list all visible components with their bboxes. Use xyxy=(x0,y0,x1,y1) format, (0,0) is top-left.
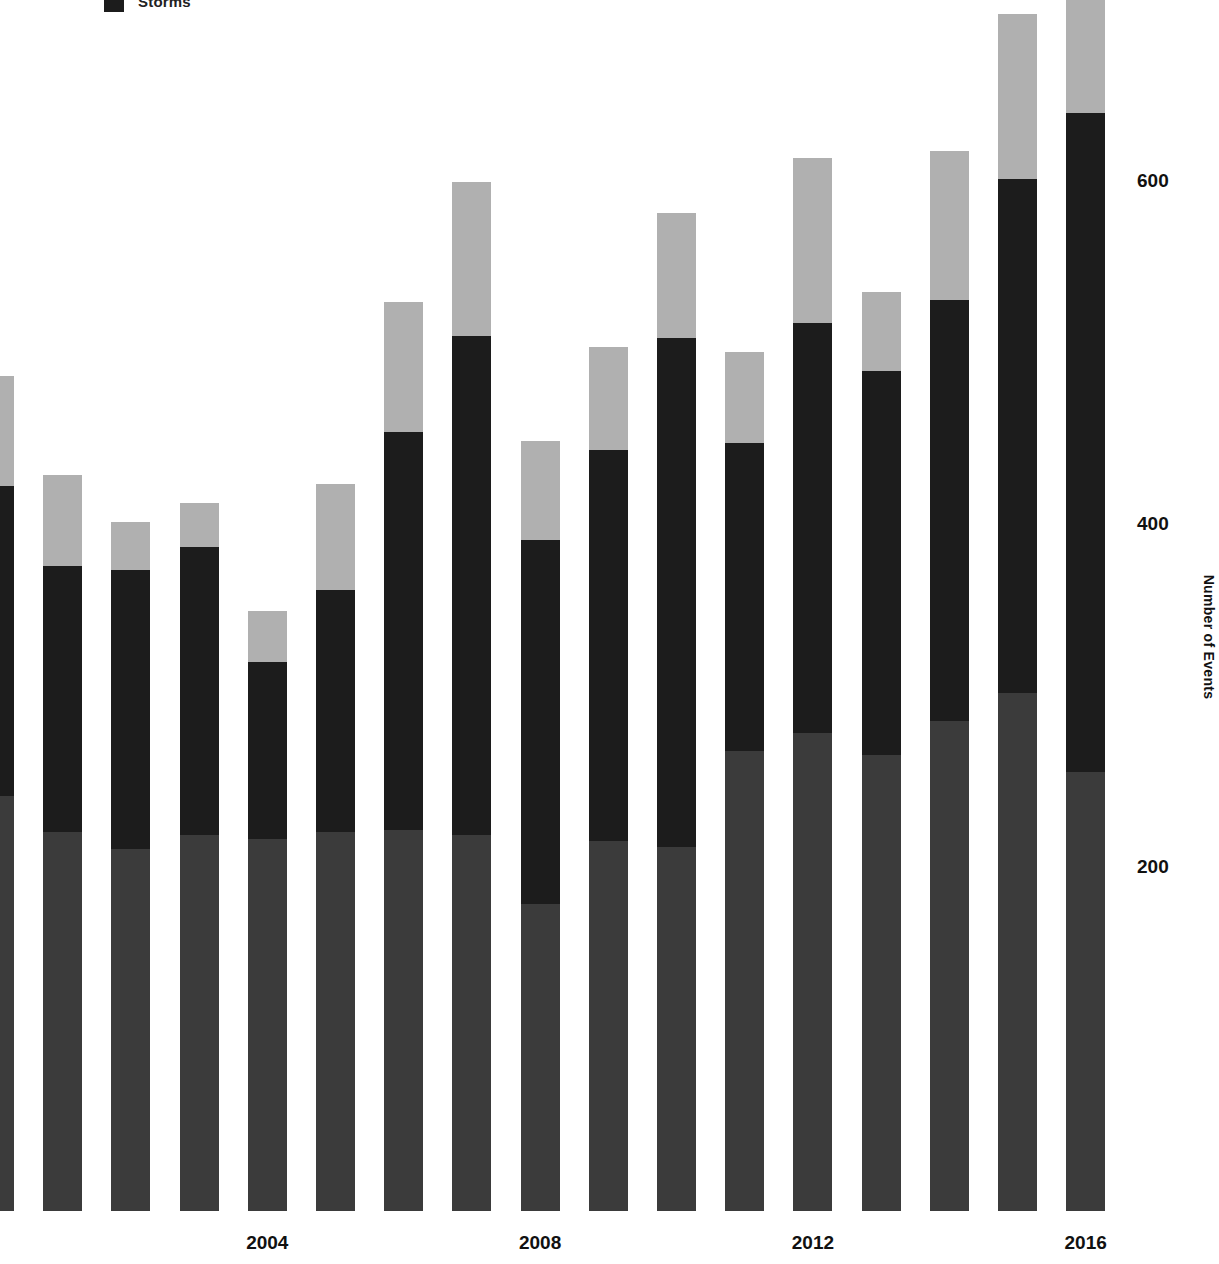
bar-segment-top-2009 xyxy=(589,347,628,450)
bar-segment-bottom-2009 xyxy=(589,841,628,1211)
bar-segment-bottom-2010 xyxy=(657,847,696,1211)
bar-2008[interactable] xyxy=(521,441,560,1211)
bar-segment-storms-2006 xyxy=(384,432,423,830)
bar-segment-top-2003 xyxy=(180,503,219,548)
bar-2005[interactable] xyxy=(316,484,355,1211)
bar-segment-bottom-2000 xyxy=(0,796,14,1211)
bar-2007[interactable] xyxy=(452,182,491,1211)
bar-segment-storms-2002 xyxy=(111,570,150,850)
bar-segment-top-2004 xyxy=(248,611,287,662)
bar-segment-bottom-2007 xyxy=(452,835,491,1211)
bar-segment-top-2007 xyxy=(452,182,491,336)
bar-segment-bottom-2004 xyxy=(248,839,287,1211)
bar-segment-bottom-2005 xyxy=(316,832,355,1211)
bar-2009[interactable] xyxy=(589,347,628,1211)
bar-2001[interactable] xyxy=(43,475,82,1211)
y-tick-600: 600 xyxy=(1137,170,1169,192)
bar-segment-storms-2003 xyxy=(180,547,219,835)
bar-segment-top-2008 xyxy=(521,441,560,540)
bar-2011[interactable] xyxy=(725,352,764,1211)
bar-segment-bottom-2003 xyxy=(180,835,219,1211)
bar-2006[interactable] xyxy=(384,302,423,1211)
stacked-bar-chart: Storms 600400200 2004200820122016 Number… xyxy=(0,0,1219,1264)
bar-segment-top-2011 xyxy=(725,352,764,443)
bar-segment-bottom-2002 xyxy=(111,849,150,1211)
bar-2004[interactable] xyxy=(248,611,287,1211)
bar-segment-bottom-2013 xyxy=(862,755,901,1211)
bar-2000[interactable] xyxy=(0,376,14,1211)
bar-2003[interactable] xyxy=(180,503,219,1211)
plot-area xyxy=(0,0,1120,1202)
bar-segment-storms-2000 xyxy=(0,486,14,796)
bar-2002[interactable] xyxy=(111,522,150,1211)
bar-segment-bottom-2014 xyxy=(930,721,969,1211)
bar-2010[interactable] xyxy=(657,213,696,1211)
x-tick-2008: 2008 xyxy=(519,1232,561,1254)
bar-segment-storms-2011 xyxy=(725,443,764,752)
y-tick-200: 200 xyxy=(1137,856,1169,878)
bar-segment-bottom-2006 xyxy=(384,830,423,1211)
bar-segment-storms-2010 xyxy=(657,338,696,847)
bar-2014[interactable] xyxy=(930,151,969,1211)
bar-segment-storms-2008 xyxy=(521,540,560,904)
bar-segment-storms-2005 xyxy=(316,590,355,832)
bar-segment-top-2013 xyxy=(862,292,901,371)
bar-segment-top-2010 xyxy=(657,213,696,338)
bar-segment-top-2002 xyxy=(111,522,150,570)
bar-segment-storms-2012 xyxy=(793,323,832,733)
y-tick-400: 400 xyxy=(1137,513,1169,535)
bar-segment-bottom-2015 xyxy=(998,693,1037,1211)
bar-2012[interactable] xyxy=(793,158,832,1211)
bar-segment-top-2005 xyxy=(316,484,355,590)
y-axis-title: Number of Events xyxy=(1201,575,1217,700)
bar-segment-top-2014 xyxy=(930,151,969,300)
bar-segment-top-2001 xyxy=(43,475,82,566)
bar-segment-storms-2001 xyxy=(43,566,82,832)
bar-segment-top-2006 xyxy=(384,302,423,432)
bar-segment-bottom-2008 xyxy=(521,904,560,1211)
bar-segment-bottom-2001 xyxy=(43,832,82,1211)
x-tick-2012: 2012 xyxy=(792,1232,834,1254)
bar-segment-storms-2013 xyxy=(862,371,901,755)
bar-segment-storms-2007 xyxy=(452,336,491,835)
bar-segment-top-2015 xyxy=(998,14,1037,179)
bar-segment-storms-2004 xyxy=(248,662,287,839)
bar-segment-storms-2016 xyxy=(1066,113,1105,772)
bar-segment-bottom-2012 xyxy=(793,733,832,1211)
bar-segment-top-2016 xyxy=(1066,0,1105,113)
bar-segment-top-2012 xyxy=(793,158,832,323)
bar-segment-storms-2014 xyxy=(930,300,969,720)
x-tick-2004: 2004 xyxy=(246,1232,288,1254)
bar-2013[interactable] xyxy=(862,292,901,1211)
x-tick-2016: 2016 xyxy=(1065,1232,1107,1254)
bar-2016[interactable] xyxy=(1066,0,1105,1211)
bar-segment-top-2000 xyxy=(0,376,14,486)
bar-segment-storms-2015 xyxy=(998,179,1037,694)
bar-2015[interactable] xyxy=(998,14,1037,1211)
bar-segment-bottom-2016 xyxy=(1066,772,1105,1211)
bar-segment-bottom-2011 xyxy=(725,751,764,1211)
bar-segment-storms-2009 xyxy=(589,450,628,841)
